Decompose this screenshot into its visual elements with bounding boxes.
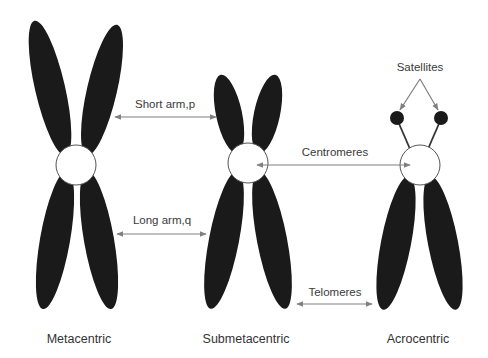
lower-left-arm xyxy=(368,173,423,312)
long-arm-label: Long arm,q xyxy=(133,214,191,226)
satellites-label: Satellites xyxy=(397,61,444,73)
acrocentric-title: Acrocentric xyxy=(387,332,450,346)
lower-right-arm xyxy=(244,168,300,311)
acrocentric-chromosome xyxy=(368,111,470,313)
centromeres-label: Centromeres xyxy=(302,146,368,158)
satellites-arrow-right xyxy=(420,79,438,110)
chromosome-diagram xyxy=(0,0,488,358)
lower-right-arm xyxy=(72,168,126,311)
centromere xyxy=(228,143,268,183)
metacentric-chromosome xyxy=(20,17,132,311)
metacentric-title: Metacentric xyxy=(47,332,112,346)
lower-right-arm xyxy=(415,173,470,312)
telomeres-label: Telomeres xyxy=(308,286,361,298)
lower-left-arm xyxy=(196,168,252,311)
centromere xyxy=(56,145,96,185)
submetacentric-chromosome xyxy=(196,72,300,311)
submetacentric-title: Submetacentric xyxy=(203,332,290,346)
upper-right-arm xyxy=(72,21,131,158)
short-arm-label: Short arm,p xyxy=(135,98,195,110)
lower-left-arm xyxy=(28,168,82,311)
upper-left-arm xyxy=(20,17,80,158)
satellites-arrow-left xyxy=(400,79,420,110)
satellite-left xyxy=(390,111,404,125)
satellite-right xyxy=(434,111,448,125)
